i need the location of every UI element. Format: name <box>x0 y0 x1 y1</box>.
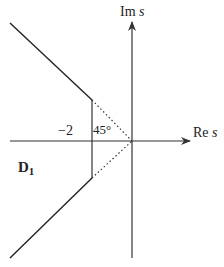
imaginary-axis-label: Im s <box>120 4 145 19</box>
s-plane-diagram: Im s Re s −2 45° D1 <box>0 0 224 267</box>
tick-label-minus-2: −2 <box>58 123 73 138</box>
lower-dotted-line <box>92 141 132 178</box>
upper-boundary-line <box>10 23 92 100</box>
lower-boundary-line <box>10 178 92 258</box>
region-label: D1 <box>18 159 34 177</box>
real-axis-label: Re s <box>193 125 218 140</box>
angle-label: 45° <box>93 122 111 137</box>
